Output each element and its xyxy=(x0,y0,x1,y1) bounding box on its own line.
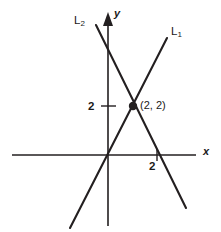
intersection-point-label: (2, 2) xyxy=(140,100,166,111)
intersection-point-dot xyxy=(129,102,137,110)
line-L2 xyxy=(96,25,186,208)
y-axis-tick-label-2: 2 xyxy=(88,101,94,113)
line-label-L1: L1 xyxy=(171,26,182,38)
line-graph-figure: y x L1 L2 2 2 (2, 2) xyxy=(0,0,221,232)
x-axis-label: x xyxy=(203,146,209,157)
line-label-L2-subscript: 2 xyxy=(80,19,84,28)
x-axis-tick-label-2: 2 xyxy=(149,161,155,173)
line-L1 xyxy=(70,38,167,228)
y-axis-label: y xyxy=(114,8,120,19)
line-label-L2: L2 xyxy=(74,15,85,27)
line-label-L1-subscript: 1 xyxy=(177,30,181,39)
y-axis-arrowhead xyxy=(103,12,113,26)
coordinate-plane-svg xyxy=(0,0,221,232)
